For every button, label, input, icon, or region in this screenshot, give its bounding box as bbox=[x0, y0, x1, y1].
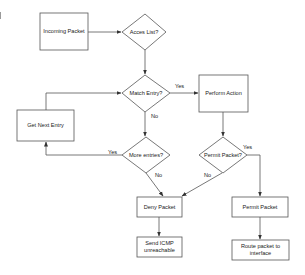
edge-permit-yes bbox=[247, 155, 260, 196]
edge-next-to-match bbox=[46, 93, 121, 110]
perform-action-box bbox=[199, 75, 248, 112]
more-no-label: No bbox=[155, 172, 162, 178]
match-no-label: No bbox=[151, 113, 158, 119]
match-yes-label: Yes bbox=[175, 83, 184, 89]
match-entry-diamond bbox=[122, 75, 170, 112]
incoming-packet-box bbox=[40, 13, 88, 50]
send-icmp-box bbox=[137, 237, 182, 257]
edge-artifact bbox=[0, 12, 1, 19]
more-entries-diamond bbox=[122, 137, 170, 173]
deny-packet-box bbox=[137, 197, 182, 217]
permit-no-label: No bbox=[204, 172, 211, 178]
get-next-entry-box bbox=[17, 110, 74, 141]
acces-list-diamond bbox=[122, 14, 166, 50]
more-yes-label: Yes bbox=[108, 149, 117, 155]
permit-yes-label: Yes bbox=[243, 144, 252, 150]
flowchart-canvas bbox=[0, 0, 305, 275]
permit-packet-diamond bbox=[199, 137, 247, 173]
route-packet-box bbox=[232, 240, 289, 260]
permit-packet-box bbox=[232, 197, 288, 217]
edge-permit-no bbox=[182, 173, 222, 196]
